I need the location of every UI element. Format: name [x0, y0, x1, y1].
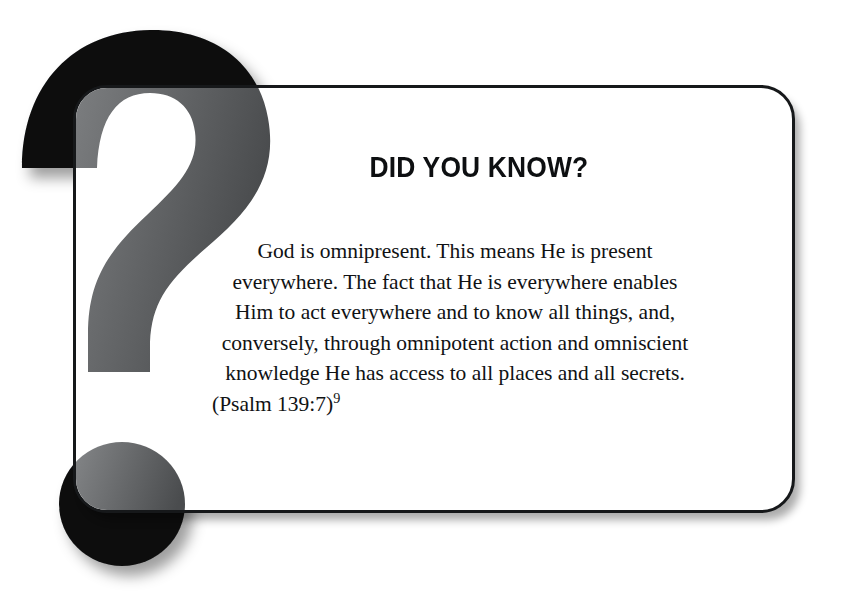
- footnote-marker: 9: [333, 389, 340, 405]
- body-line: everywhere. The fact that He is everywhe…: [190, 267, 720, 298]
- callout-text-content: DID YOU KNOW? God is omnipresent. This m…: [190, 150, 720, 419]
- callout-body: God is omnipresent. This means He is pre…: [190, 236, 720, 419]
- did-you-know-callout: DID YOU KNOW? God is omnipresent. This m…: [0, 0, 850, 605]
- body-line: Him to act everywhere and to know all th…: [190, 297, 720, 328]
- page-title: DID YOU KNOW?: [267, 150, 691, 184]
- body-line: God is omnipresent. This means He is pre…: [190, 236, 720, 267]
- body-line: knowledge He has access to all places an…: [190, 358, 720, 389]
- body-line: conversely, through omnipotent action an…: [190, 328, 720, 359]
- scripture-citation: (Psalm 139:7)9: [212, 389, 720, 420]
- citation-reference: (Psalm 139:7): [212, 392, 333, 416]
